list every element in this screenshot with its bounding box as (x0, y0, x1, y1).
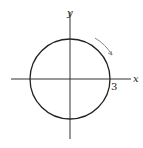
clockwise-arrow-icon (95, 38, 112, 55)
radius-label: 3 (111, 81, 117, 92)
diagram: x y 3 (0, 0, 143, 148)
x-axis-label: x (133, 73, 139, 84)
circle-diagram: x y 3 (0, 0, 143, 148)
y-axis-label: y (66, 7, 73, 18)
